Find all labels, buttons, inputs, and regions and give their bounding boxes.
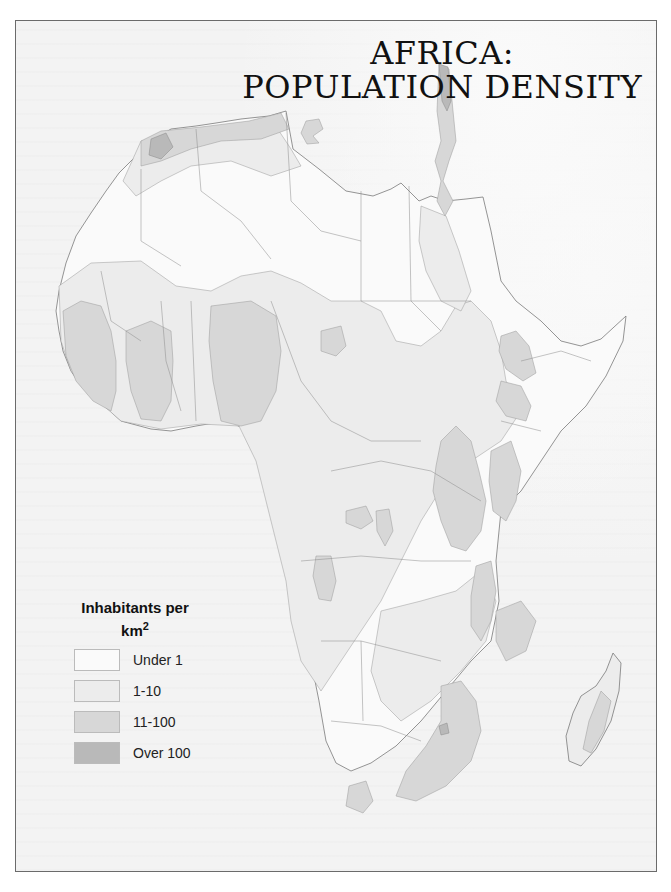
legend-label: 11-100 (133, 714, 176, 730)
legend-label: 1-10 (133, 683, 161, 699)
title-line-1: AFRICA: (242, 37, 642, 71)
legend-label: Over 100 (133, 745, 191, 761)
legend-swatch-under-1 (74, 649, 120, 671)
map-title: AFRICA: POPULATION DENSITY (242, 37, 642, 104)
legend-item-under-1: Under 1 (74, 649, 234, 671)
legend-item-11-100: 11-100 (74, 711, 234, 733)
legend-swatch-11-100 (74, 711, 120, 733)
legend-swatch-1-10 (74, 680, 120, 702)
legend-swatch-over-100 (74, 742, 120, 764)
legend-item-over-100: Over 100 (74, 742, 234, 764)
legend-label: Under 1 (133, 652, 183, 668)
legend-title: Inhabitants per km2 (74, 599, 196, 640)
legend-item-1-10: 1-10 (74, 680, 234, 702)
map-frame: AFRICA: POPULATION DENSITY Inhabitants p… (15, 20, 657, 872)
legend-title-superscript: 2 (143, 620, 149, 632)
legend-title-line-1: Inhabitants per (81, 599, 189, 616)
title-line-2: POPULATION DENSITY (242, 71, 642, 105)
legend-title-unit: km (121, 622, 143, 639)
legend: Inhabitants per km2 Under 1 1-10 11-100 … (74, 599, 234, 764)
